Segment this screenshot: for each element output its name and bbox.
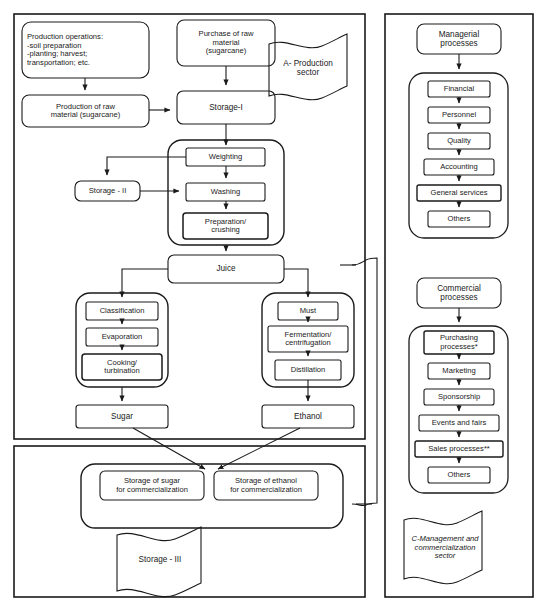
node-personnel — [428, 107, 490, 123]
node-sales-processes — [415, 441, 503, 457]
flowchart-canvas: Production operations: -soil preparation… — [0, 0, 547, 611]
node-events-and-fairs — [419, 415, 499, 431]
node-storage-ii — [75, 181, 140, 201]
node-marketing — [428, 363, 490, 379]
node-purchasing-processes — [424, 331, 494, 354]
node-washing — [186, 183, 265, 201]
node-accounting — [424, 159, 494, 175]
arrow-ethanol-to-storage-iii — [218, 428, 300, 469]
node-juice — [168, 255, 284, 283]
node-others-commercial — [428, 467, 490, 483]
node-others-managerial — [428, 211, 490, 227]
node-financial — [428, 81, 490, 97]
node-storage-i — [177, 91, 275, 124]
group-milling — [168, 140, 284, 245]
node-sugar — [76, 405, 168, 428]
node-classification — [86, 302, 158, 320]
node-purchase-raw-material — [177, 20, 275, 66]
node-weighting — [186, 148, 265, 166]
node-preparation-crushing — [183, 213, 268, 239]
flowchart-graphics — [0, 0, 547, 611]
group-commercial-storage — [81, 464, 343, 528]
node-evaporation — [86, 328, 158, 346]
banner-production-sector — [269, 34, 347, 100]
banner-storage-iii — [117, 527, 201, 597]
node-storage-of-sugar — [100, 471, 204, 500]
arrow-weighting-to-storage-ii — [107, 157, 186, 175]
node-must — [278, 302, 338, 320]
node-cooking-turbination — [82, 354, 162, 380]
group-ethanol-process — [262, 293, 354, 387]
node-production-operations — [22, 22, 149, 78]
node-general-services — [417, 185, 501, 201]
node-managerial-processes — [417, 24, 501, 54]
banner-management-sector — [404, 511, 482, 584]
node-ethanol — [262, 405, 354, 428]
node-distillation — [275, 360, 341, 380]
node-sponsorship — [424, 389, 494, 405]
node-production-raw-material — [22, 95, 149, 127]
node-quality — [428, 133, 490, 149]
arrow-sugar-to-storage-iii — [133, 428, 205, 469]
node-commercial-processes — [417, 278, 501, 308]
node-storage-of-ethanol — [214, 471, 318, 500]
group-sugar-process — [76, 293, 168, 387]
node-fermentation-centrifugation — [268, 326, 348, 352]
panel-storage-sector — [14, 446, 365, 597]
